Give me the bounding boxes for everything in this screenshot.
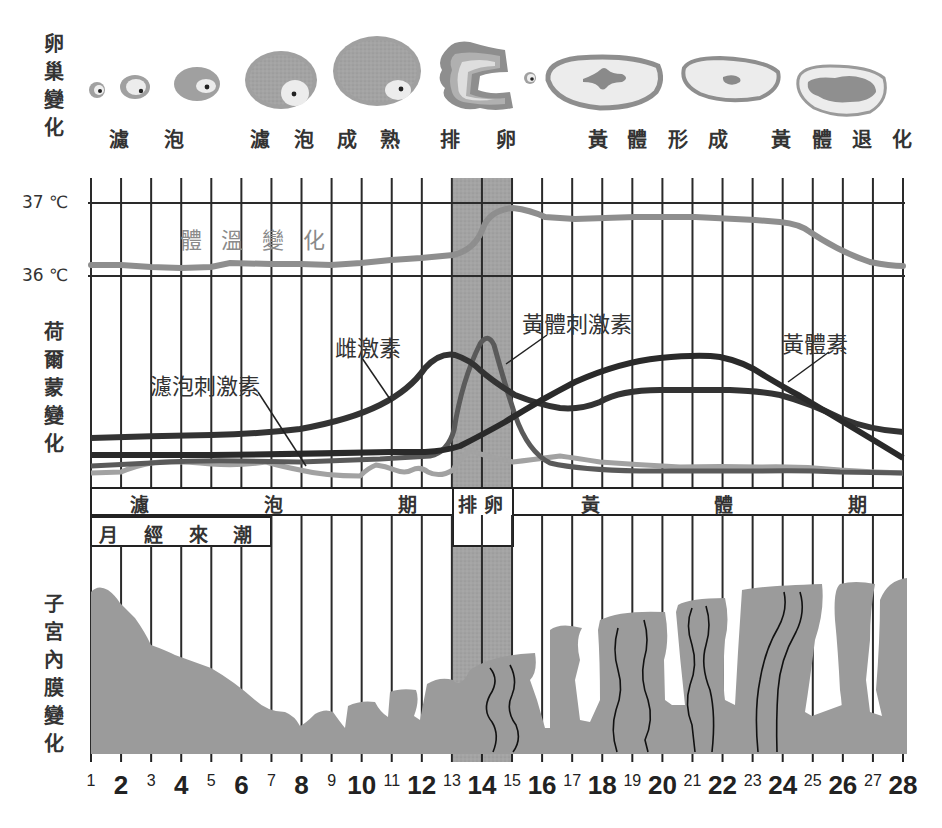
stage-ovulation-char: 卵 <box>496 124 516 153</box>
stage-mature-char: 濾 <box>250 124 270 153</box>
label-char: 荷 <box>40 318 68 346</box>
label-char: 膜 <box>40 674 68 702</box>
luteal-phase-char: 黃 <box>581 490 600 517</box>
stage-cl-forming-char: 成 <box>708 124 728 153</box>
label-char: 化 <box>40 730 68 758</box>
day-label: 17 <box>563 772 581 790</box>
ovulation-rupture-icon <box>440 42 513 110</box>
label-char: 巢 <box>40 58 68 86</box>
day-label: 7 <box>267 772 276 790</box>
corpus-luteum-mature-icon <box>683 58 778 100</box>
day-label: 9 <box>327 772 336 790</box>
day-label: 13 <box>443 772 461 790</box>
endometrium-section-label: 子 宮 內 膜 變 化 <box>40 590 68 758</box>
stage-mature-char: 泡 <box>294 124 314 153</box>
ovulation-phase-label: 排 卵 <box>458 490 503 517</box>
stage-ovulation-char: 排 <box>440 124 460 153</box>
day-label: 22 <box>708 770 737 801</box>
day-label: 15 <box>503 772 521 790</box>
stage-cl-regressing-char: 退 <box>852 124 872 153</box>
stage-cl-forming-char: 黃 <box>588 124 608 153</box>
day-label: 6 <box>234 770 248 801</box>
estrogen-label: 雌激素 <box>335 330 401 362</box>
mature-follicle-icon <box>333 36 421 106</box>
day-label: 14 <box>467 770 496 801</box>
follicle-stage-1-icon <box>89 82 105 98</box>
label-char: 子 <box>40 590 68 618</box>
label-char: 內 <box>40 646 68 674</box>
stage-cl-forming-char: 體 <box>627 124 647 153</box>
day-label: 16 <box>528 770 557 801</box>
ovary-section-label: 卵 巢 變 化 <box>40 30 68 142</box>
day-label: 5 <box>207 772 216 790</box>
stage-mature-char: 成 <box>337 124 357 153</box>
follicular-phase-char: 期 <box>398 490 417 517</box>
day-label: 23 <box>744 772 762 790</box>
day-label: 11 <box>383 772 400 790</box>
temp-tick-37: 37 ℃ <box>22 192 68 212</box>
lh-label: 黃體刺激素 <box>522 306 632 338</box>
label-char: 變 <box>40 402 68 430</box>
follicular-phase-char: 泡 <box>264 490 283 517</box>
luteal-phase-bar <box>513 488 903 515</box>
day-label: 26 <box>828 770 857 801</box>
estrogen-leader <box>362 358 392 402</box>
stage-cl-regressing-char: 體 <box>812 124 832 153</box>
label-char: 爾 <box>40 346 68 374</box>
menstruation-char: 經 <box>144 520 163 547</box>
menstruation-char: 來 <box>189 520 208 547</box>
label-char: 蒙 <box>40 374 68 402</box>
released-ovum-icon <box>524 72 536 84</box>
stage-cl-regressing-char: 化 <box>892 124 912 153</box>
day-label: 3 <box>147 772 156 790</box>
menstruation-char: 潮 <box>233 520 252 547</box>
stage-cl-regressing-char: 黃 <box>771 124 791 153</box>
fsh-label: 濾泡刺激素 <box>150 368 260 400</box>
label-char: 化 <box>40 114 68 142</box>
menstrual-cycle-diagram <box>0 0 942 828</box>
day-label: 21 <box>684 772 702 790</box>
label-char: 卵 <box>40 30 68 58</box>
day-label: 10 <box>347 770 376 801</box>
stage-cl-forming-char: 形 <box>668 124 688 153</box>
corpus-luteum-regressing-icon <box>798 66 886 115</box>
day-label: 1 <box>87 772 96 790</box>
follicle-stage-4-icon <box>245 51 317 109</box>
follicular-phase-char: 濾 <box>130 490 149 517</box>
luteal-phase-char: 期 <box>848 490 867 517</box>
temp-tick-36: 36 ℃ <box>22 265 68 285</box>
progesterone-label: 黃體素 <box>782 326 848 358</box>
follicle-stage-2-icon <box>120 75 150 99</box>
stage-mature-char: 熟 <box>380 124 400 153</box>
day-label: 28 <box>889 770 918 801</box>
day-label: 8 <box>294 770 308 801</box>
corpus-luteum-forming-icon <box>548 57 661 108</box>
day-label: 20 <box>648 770 677 801</box>
label-char: 化 <box>40 430 68 458</box>
day-label: 19 <box>623 772 641 790</box>
menstruation-char: 月 <box>99 520 118 547</box>
stage-follicle-char: 濾 <box>109 124 129 153</box>
label-char: 宮 <box>40 618 68 646</box>
label-char: 變 <box>40 702 68 730</box>
day-label: 12 <box>407 770 436 801</box>
day-label: 24 <box>768 770 797 801</box>
stage-follicle-char: 泡 <box>164 124 184 153</box>
day-label: 25 <box>804 772 822 790</box>
day-label: 4 <box>174 770 188 801</box>
luteal-phase-char: 體 <box>714 490 733 517</box>
day-label: 18 <box>588 770 617 801</box>
ovary-illustrations <box>89 36 885 115</box>
label-char: 變 <box>40 86 68 114</box>
temperature-curve-label: 體 溫 變 化 <box>180 222 331 254</box>
follicle-stage-3-icon <box>174 67 220 101</box>
day-label: 27 <box>864 772 882 790</box>
day-label: 2 <box>114 770 128 801</box>
hormone-section-label: 荷 爾 蒙 變 化 <box>40 318 68 458</box>
